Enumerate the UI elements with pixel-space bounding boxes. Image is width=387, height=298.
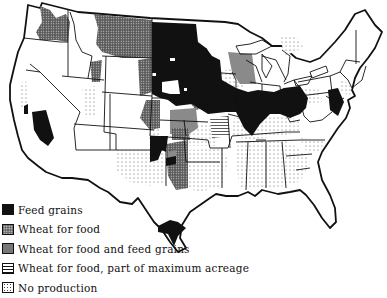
legend-item-wheat-food-feed: Wheat for food and feed grains	[2, 239, 249, 259]
no-production-swatch-icon	[2, 282, 14, 293]
legend-label: Wheat for food and feed grains	[18, 243, 190, 255]
feed-grains-swatch-icon	[2, 204, 14, 215]
legend-item-wheat-part-maximum: Wheat for food, part of maximum acreage	[2, 259, 249, 279]
wheat-part-maximum-swatch-icon	[2, 263, 14, 274]
legend-item-feed-grains: Feed grains	[2, 200, 249, 220]
legend-item-wheat-for-food: Wheat for food	[2, 220, 249, 240]
legend-item-no-production: No production	[2, 278, 249, 298]
legend-label: Wheat for food	[18, 223, 100, 235]
legend-label: No production	[18, 282, 98, 294]
wheat-for-food-swatch-icon	[2, 224, 14, 235]
region-wheat-part-maximum	[210, 116, 230, 138]
legend-label: Wheat for food, part of maximum acreage	[18, 262, 249, 274]
legend: Feed grains Wheat for food Wheat for foo…	[2, 200, 249, 298]
legend-label: Feed grains	[18, 204, 83, 216]
wheat-food-feed-swatch-icon	[2, 243, 14, 254]
